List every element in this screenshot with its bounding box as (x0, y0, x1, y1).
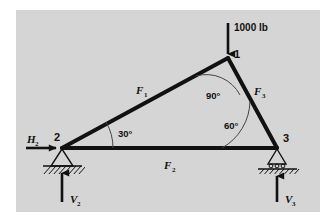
reaction-v3-label-subscript: 3 (292, 200, 296, 208)
member-f3-label-text: F (253, 85, 262, 97)
diagram-panel: 1000 lb 1 2 3 F 1 F 2 F 3 90° 30° 60° H … (0, 0, 326, 221)
member-f1-label-subscript: 1 (144, 91, 148, 99)
member-f2-label-text: F (163, 159, 172, 171)
reaction-v2-label-subscript: 2 (77, 200, 81, 208)
member-f2-label-subscript: 2 (172, 166, 176, 174)
joint-1-label: 1 (234, 48, 240, 60)
joint-2-label: 2 (54, 131, 60, 143)
truss-diagram: 1000 lb 1 2 3 F 1 F 2 F 3 90° 30° 60° H … (0, 0, 326, 221)
member-f3-label-subscript: 3 (262, 92, 266, 100)
angle-label-60: 60° (224, 120, 239, 131)
reaction-h2-label-subscript: 2 (35, 140, 39, 148)
angle-label-90: 90° (206, 90, 221, 101)
figure-root: 1000 lb 1 2 3 F 1 F 2 F 3 90° 30° 60° H … (0, 0, 326, 221)
member-f1-label-text: F (135, 84, 144, 96)
applied-load-label: 1000 lb (234, 22, 268, 33)
angle-label-30: 30° (118, 128, 133, 139)
joint-3-label: 3 (283, 132, 289, 144)
